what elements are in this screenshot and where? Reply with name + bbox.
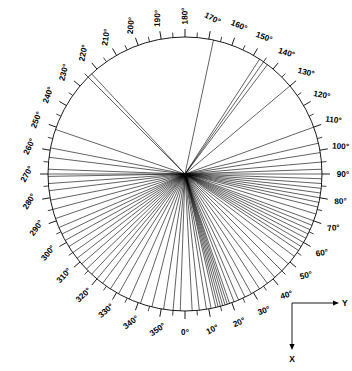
angular-tick-label: 80° (334, 197, 347, 207)
angular-tick-label: 190° (153, 10, 162, 27)
angular-tick-label: 200° (126, 17, 136, 35)
angular-tick-label: 100° (332, 142, 349, 152)
angular-tick-label: 70° (327, 223, 340, 233)
angular-tick-label: 180° (180, 7, 190, 24)
angular-tick-label: 90° (337, 170, 349, 179)
angular-tick-label: 0° (181, 328, 189, 337)
y-axis-label: Y (342, 298, 348, 308)
polar-rose-diagram: 0°10°20°30°40°50°60°70°80°90°100°110°120… (0, 0, 352, 371)
x-axis-label: X (289, 354, 295, 364)
angular-tick-label: 110° (325, 115, 342, 126)
